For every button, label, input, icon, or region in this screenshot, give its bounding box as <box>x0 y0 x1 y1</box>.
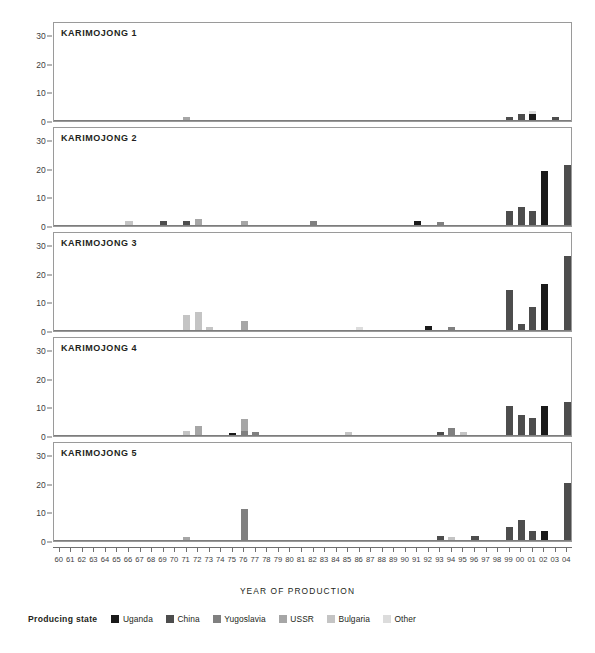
x-tick-label: 02 <box>539 555 547 564</box>
y-tick-mark <box>47 484 52 485</box>
x-tick-mark <box>439 547 440 552</box>
y-tick-mark <box>47 36 52 37</box>
x-tick-mark <box>301 547 302 552</box>
x-tick-mark <box>566 547 567 552</box>
x-tick-mark <box>197 547 198 552</box>
bar-segment <box>529 307 536 330</box>
plot-area: KARIMOJONG 5 <box>53 442 572 542</box>
x-tick-mark <box>405 547 406 552</box>
x-tick-label: 98 <box>493 555 501 564</box>
x-tick-label: 61 <box>66 555 74 564</box>
x-tick-label: 87 <box>366 555 374 564</box>
y-tick-label: 0 <box>41 327 46 337</box>
x-tick-label: 64 <box>101 555 109 564</box>
x-tick-label: 88 <box>377 555 385 564</box>
x-tick-mark <box>59 547 60 552</box>
y-tick-mark <box>47 351 52 352</box>
bar-segment <box>506 290 513 330</box>
plot-area: KARIMOJONG 3 <box>53 232 572 332</box>
y-tick-mark <box>47 456 52 457</box>
y-axis: 0102030 <box>18 22 52 122</box>
x-tick-label: 72 <box>193 555 201 564</box>
plot-area: KARIMOJONG 4 <box>53 337 572 437</box>
bar-segment <box>564 483 571 540</box>
y-tick-label: 30 <box>36 136 46 146</box>
legend-item-yugoslavia: Yugoslavia <box>213 614 266 624</box>
x-tick-mark <box>289 547 290 552</box>
x-tick-label: 74 <box>216 555 224 564</box>
x-tick-label: 00 <box>516 555 524 564</box>
legend-swatch-icon <box>166 615 174 623</box>
y-tick-mark <box>47 408 52 409</box>
legend-item-other: Other <box>383 614 416 624</box>
x-tick-mark <box>486 547 487 552</box>
bar-segment <box>541 531 548 540</box>
x-tick-label: 80 <box>285 555 293 564</box>
x-tick-mark <box>416 547 417 552</box>
x-tick-mark <box>186 547 187 552</box>
legend-swatch-icon <box>213 615 221 623</box>
y-tick-mark <box>47 274 52 275</box>
legend-swatch-icon <box>279 615 287 623</box>
y-axis: 0102030 <box>18 127 52 227</box>
x-tick-label: 90 <box>401 555 409 564</box>
y-tick-mark <box>47 93 52 94</box>
legend-label: USSR <box>290 614 314 624</box>
y-tick-label: 30 <box>36 451 46 461</box>
bar-segment <box>529 531 536 540</box>
y-tick-label: 10 <box>36 88 46 98</box>
bar-segment <box>541 284 548 330</box>
panel-1: 0102030KARIMOJONG 1 <box>0 22 595 127</box>
x-tick-mark <box>497 547 498 552</box>
x-tick-mark <box>474 547 475 552</box>
legend-items: UgandaChinaYugoslaviaUSSRBulgariaOther <box>111 614 429 624</box>
y-tick-label: 0 <box>41 537 46 547</box>
panel-5: 0102030KARIMOJONG 5 <box>0 442 595 547</box>
x-tick-mark <box>140 547 141 552</box>
legend-item-ussr: USSR <box>279 614 314 624</box>
legend-item-uganda: Uganda <box>111 614 152 624</box>
x-tick-mark <box>220 547 221 552</box>
x-tick-label: 84 <box>331 555 339 564</box>
x-tick-label: 82 <box>308 555 316 564</box>
x-tick-mark <box>93 547 94 552</box>
x-tick-mark <box>347 547 348 552</box>
legend-swatch-icon <box>383 615 391 623</box>
y-tick-label: 30 <box>36 31 46 41</box>
x-tick-label: 81 <box>297 555 305 564</box>
bar-group <box>54 231 571 330</box>
x-tick-label: 86 <box>354 555 362 564</box>
x-tick-mark <box>278 547 279 552</box>
bar-segment <box>506 527 513 540</box>
bar-segment <box>564 402 571 435</box>
y-tick-label: 30 <box>36 241 46 251</box>
x-tick-label: 75 <box>228 555 236 564</box>
plot-area: KARIMOJONG 1 <box>53 22 572 122</box>
x-tick-label: 89 <box>389 555 397 564</box>
panel-4: 0102030KARIMOJONG 4 <box>0 337 595 442</box>
y-tick-mark <box>47 198 52 199</box>
bar-segment <box>529 211 536 225</box>
legend-label: China <box>177 614 199 624</box>
y-tick-label: 10 <box>36 298 46 308</box>
x-tick-mark <box>324 547 325 552</box>
legend-label: Other <box>395 614 416 624</box>
y-tick-label: 20 <box>36 60 46 70</box>
x-tick-mark <box>243 547 244 552</box>
x-tick-mark <box>393 547 394 552</box>
y-axis: 0102030 <box>18 442 52 542</box>
bar-segment <box>564 256 571 330</box>
x-tick-mark <box>451 547 452 552</box>
y-tick-mark <box>47 122 52 123</box>
x-tick-label: 66 <box>124 555 132 564</box>
bar-segment <box>518 415 525 435</box>
plot-area: KARIMOJONG 2 <box>53 127 572 227</box>
x-tick-mark <box>336 547 337 552</box>
x-tick-mark <box>174 547 175 552</box>
bar-group <box>54 336 571 435</box>
bar-segment <box>241 509 248 540</box>
y-tick-label: 10 <box>36 508 46 518</box>
x-tick-mark <box>266 547 267 552</box>
y-tick-mark <box>47 169 52 170</box>
legend-title: Producing state <box>28 614 97 624</box>
